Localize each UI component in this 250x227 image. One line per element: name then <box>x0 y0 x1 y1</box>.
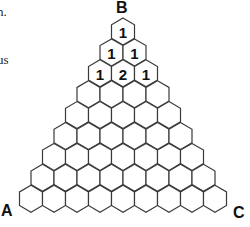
hex-cell-value: 1 <box>142 66 150 83</box>
hex-cell <box>158 185 181 212</box>
hex-cell <box>66 185 89 212</box>
hex-cell <box>181 185 204 212</box>
hexagon-triangle-grid: 111121 <box>0 0 250 227</box>
hex-cell-value: 2 <box>119 66 127 83</box>
hex-cell-value: 1 <box>119 24 127 41</box>
hex-cell <box>43 185 66 212</box>
hex-cell <box>89 185 112 212</box>
hex-cell <box>204 185 227 212</box>
hex-cell <box>112 185 135 212</box>
hex-cell-value: 1 <box>130 45 138 62</box>
hex-cell-value: 1 <box>96 66 104 83</box>
vertex-label-c: C <box>233 205 245 221</box>
vertex-label-b: B <box>116 0 128 16</box>
hex-cell <box>20 185 43 212</box>
vertex-label-a: A <box>1 203 13 219</box>
hex-cell-value: 1 <box>107 45 115 62</box>
hex-cell <box>135 185 158 212</box>
